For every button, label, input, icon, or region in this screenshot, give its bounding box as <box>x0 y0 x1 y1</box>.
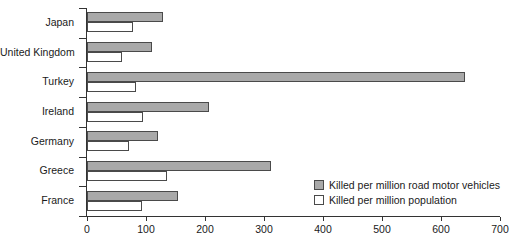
x-tick <box>500 217 501 221</box>
category-label-ireland: Ireland <box>0 106 74 117</box>
bar-japan-vehicles <box>87 12 163 22</box>
bar-germany-vehicles <box>87 131 158 141</box>
y-tick <box>79 127 86 128</box>
category-label-france: France <box>0 195 74 206</box>
legend-item-vehicles[interactable]: Killed per million road motor vehicles <box>314 178 500 192</box>
category-label-turkey: Turkey <box>0 76 74 87</box>
bar-turkey-vehicles <box>87 72 465 82</box>
chart-legend: Killed per million road motor vehiclesKi… <box>314 178 500 208</box>
legend-swatch-vehicles-icon <box>314 180 324 190</box>
category-axis-labels: JapanUnited KingdomTurkeyIrelandGermanyG… <box>0 8 78 216</box>
bar-ireland-population <box>87 112 143 122</box>
legend-label: Killed per million road motor vehicles <box>329 179 500 191</box>
y-tick <box>79 8 86 9</box>
category-label-greece: Greece <box>0 165 74 176</box>
category-label-united-kingdom: United Kingdom <box>0 47 74 58</box>
legend-item-population[interactable]: Killed per million population <box>314 193 500 207</box>
y-tick <box>79 216 86 217</box>
legend-swatch-population-icon <box>314 195 324 205</box>
x-tick-label: 200 <box>196 223 214 235</box>
bar-greece-vehicles <box>87 161 271 171</box>
bar-japan-population <box>87 22 133 32</box>
y-tick <box>79 67 86 68</box>
x-tick-label: 600 <box>432 223 450 235</box>
bar-turkey-population <box>87 82 136 92</box>
x-tick-label: 100 <box>137 223 155 235</box>
y-tick <box>79 186 86 187</box>
x-tick <box>441 217 442 221</box>
x-tick <box>146 217 147 221</box>
x-tick <box>323 217 324 221</box>
bar-germany-population <box>87 141 129 151</box>
bar-united-kingdom-population <box>87 52 122 62</box>
legend-label: Killed per million population <box>329 194 457 206</box>
bar-ireland-vehicles <box>87 102 209 112</box>
bar-greece-population <box>87 171 167 181</box>
x-tick-label: 0 <box>84 223 90 235</box>
x-tick <box>382 217 383 221</box>
y-tick <box>79 38 86 39</box>
x-axis-line <box>86 216 500 217</box>
bar-chart: JapanUnited KingdomTurkeyIrelandGermanyG… <box>0 0 521 248</box>
bar-france-population <box>87 201 142 211</box>
category-label-germany: Germany <box>0 136 74 147</box>
y-tick <box>79 157 86 158</box>
x-tick <box>264 217 265 221</box>
bar-united-kingdom-vehicles <box>87 42 152 52</box>
x-tick-label: 400 <box>314 223 332 235</box>
x-tick <box>87 217 88 221</box>
x-tick-label: 700 <box>491 223 509 235</box>
category-label-japan: Japan <box>0 17 74 28</box>
bar-france-vehicles <box>87 191 178 201</box>
x-tick-label: 500 <box>373 223 391 235</box>
x-tick-label: 300 <box>255 223 273 235</box>
y-tick <box>79 97 86 98</box>
x-tick <box>205 217 206 221</box>
